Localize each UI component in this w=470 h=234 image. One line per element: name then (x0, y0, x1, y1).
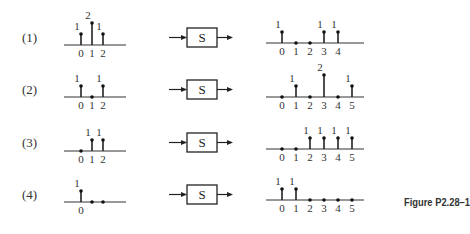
n-tick-label: 1 (89, 99, 95, 111)
stem-dot (280, 30, 284, 34)
input-signal-sample: 10 (74, 20, 84, 59)
input-signal-sample: 12 (96, 72, 106, 111)
n-tick-label: 5 (349, 151, 355, 163)
stem-dot (101, 84, 105, 88)
n-tick-label: 0 (279, 45, 285, 57)
output-signal-sample: 12 (303, 124, 313, 163)
output-signal-sample: 3 (321, 198, 327, 214)
amplitude-label: 1 (275, 175, 281, 187)
stem-dot (294, 187, 298, 191)
system-block: S (169, 80, 233, 99)
amplitude-label: 1 (96, 72, 102, 84)
stem-dot (79, 32, 83, 36)
zero-dot (101, 200, 105, 204)
output-signal-sample: 13 (317, 18, 327, 57)
system-block: S (169, 28, 233, 47)
n-tick-label: 1 (293, 202, 299, 214)
n-tick-label: 3 (321, 45, 327, 57)
output-signal-sample: 15 (345, 72, 355, 111)
n-tick-label: 2 (307, 99, 313, 111)
n-tick-label: 1 (89, 153, 95, 165)
amplitude-label: 1 (289, 72, 295, 84)
output-signal-sample: 0 (279, 147, 285, 163)
output-signal-sample: 23 (317, 61, 327, 111)
arrow-head-icon (227, 192, 233, 197)
system-block: S (169, 185, 233, 204)
n-tick-label: 0 (279, 202, 285, 214)
row-label: (4) (22, 187, 37, 202)
output-signal-sample: 1 (293, 147, 299, 163)
row-label: (3) (22, 135, 37, 150)
n-tick-label: 0 (78, 204, 84, 216)
arrow-head-icon (181, 192, 187, 197)
n-tick-label: 0 (279, 99, 285, 111)
stem-dot (294, 84, 298, 88)
n-tick-label: 0 (78, 99, 84, 111)
stem-dot (350, 136, 354, 140)
amplitude-label: 1 (345, 72, 351, 84)
n-tick-label: 5 (349, 202, 355, 214)
stem-dot (308, 136, 312, 140)
stem-dot (350, 84, 354, 88)
amplitude-label: 2 (317, 61, 323, 73)
system-label: S (198, 30, 205, 45)
arrow-head-icon (227, 35, 233, 40)
output-signal-sample: 1 (293, 41, 299, 57)
n-tick-label: 2 (100, 99, 106, 111)
zero-dot (90, 200, 94, 204)
output-signal-sample: 5 (349, 198, 355, 214)
n-tick-label: 1 (293, 99, 299, 111)
n-tick-label: 0 (78, 47, 84, 59)
output-signal-sample: 2 (307, 198, 313, 214)
input-signal-sample: 1 (89, 95, 95, 111)
system-label: S (198, 82, 205, 97)
n-tick-label: 2 (307, 151, 313, 163)
n-tick-label: 4 (335, 202, 341, 214)
output-signal-sample: 4 (335, 198, 341, 214)
input-signal-sample (101, 200, 105, 204)
n-tick-label: 2 (100, 47, 106, 59)
row-label: (2) (22, 82, 37, 97)
n-tick-label: 4 (335, 45, 341, 57)
input-signal-sample: 21 (85, 9, 95, 59)
output-signal-sample: 2 (307, 95, 313, 111)
row-label: (1) (22, 30, 37, 45)
system-label: S (198, 187, 205, 202)
amplitude-label: 1 (96, 126, 102, 138)
stem-dot (322, 30, 326, 34)
stem-dot (280, 187, 284, 191)
n-tick-label: 4 (335, 99, 341, 111)
output-signal-sample: 4 (335, 95, 341, 111)
stem-dot (101, 138, 105, 142)
arrow-head-icon (227, 87, 233, 92)
stem-dot (90, 138, 94, 142)
amplitude-label: 1 (74, 177, 80, 189)
amplitude-label: 1 (74, 20, 80, 32)
output-signal-sample: 11 (289, 72, 299, 111)
output-signal-sample: 14 (331, 18, 341, 57)
output-signal-sample: 14 (331, 124, 341, 163)
amplitude-label: 1 (331, 18, 337, 30)
n-tick-label: 2 (307, 202, 313, 214)
output-signal-sample: 0 (279, 95, 285, 111)
arrow-head-icon (181, 87, 187, 92)
input-signal-sample: 10 (74, 177, 84, 216)
n-tick-label: 1 (293, 45, 299, 57)
stem-dot (90, 21, 94, 25)
amplitude-label: 1 (317, 18, 323, 30)
n-tick-label: 4 (335, 151, 341, 163)
row-1: (1)102112S10121314 (22, 9, 364, 59)
stem-dot (101, 32, 105, 36)
amplitude-label: 1 (345, 124, 351, 136)
row-4: (4)10S10112345 (22, 175, 364, 216)
output-signal-sample: 10 (275, 18, 285, 57)
input-signal-sample: 0 (78, 149, 84, 165)
system-label: S (198, 135, 205, 150)
n-tick-label: 1 (89, 47, 95, 59)
figure-caption: Figure P2.28–1 (404, 196, 470, 208)
system-block: S (169, 133, 233, 152)
stem-dot (336, 30, 340, 34)
output-signal-sample: 2 (307, 41, 313, 57)
output-signal-sample: 15 (345, 124, 355, 163)
